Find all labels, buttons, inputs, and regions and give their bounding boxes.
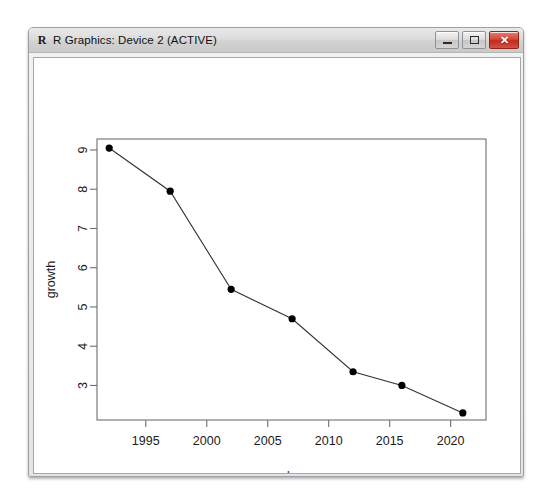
y-tick-label: 6 (76, 264, 90, 271)
growth-trend-line (109, 148, 463, 413)
growth-line-chart: 1995200020052010201520203456789endyeargr… (34, 58, 520, 473)
x-tick-label: 1995 (132, 434, 160, 448)
y-axis-title: growth (44, 261, 58, 299)
r-logo-icon: R (35, 33, 49, 47)
data-point (106, 144, 113, 151)
window-controls: ✕ (435, 31, 519, 49)
y-tick-label: 7 (76, 225, 90, 232)
y-tick-label: 4 (76, 343, 90, 350)
maximize-button[interactable] (462, 31, 486, 49)
x-tick-label: 2010 (315, 434, 343, 448)
y-tick-label: 9 (76, 146, 90, 153)
y-tick-label: 5 (76, 303, 90, 310)
data-point (459, 409, 466, 416)
x-axis-title: endyear (269, 469, 314, 473)
y-tick-label: 8 (76, 186, 90, 193)
y-tick-label: 3 (76, 382, 90, 389)
window-title: R Graphics: Device 2 (ACTIVE) (53, 34, 217, 46)
x-tick-label: 2005 (254, 434, 282, 448)
close-icon: ✕ (500, 35, 509, 46)
x-tick-label: 2000 (193, 434, 221, 448)
data-point (289, 315, 296, 322)
data-point (228, 286, 235, 293)
close-button[interactable]: ✕ (489, 31, 519, 49)
data-point (398, 382, 405, 389)
graphics-device-canvas: 1995200020052010201520203456789endyeargr… (33, 57, 521, 474)
data-point (167, 188, 174, 195)
x-tick-label: 2020 (437, 434, 465, 448)
window-title-bar[interactable]: R R Graphics: Device 2 (ACTIVE) ✕ (29, 28, 523, 53)
data-point (349, 368, 356, 375)
maximize-icon (470, 36, 479, 44)
r-graphics-window: R R Graphics: Device 2 (ACTIVE) ✕ 199520… (28, 27, 524, 477)
x-tick-label: 2015 (376, 434, 404, 448)
minimize-button[interactable] (435, 31, 459, 49)
minimize-icon (443, 42, 452, 44)
